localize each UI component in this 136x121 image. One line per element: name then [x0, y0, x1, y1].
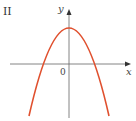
y-axis-arrow-icon	[67, 9, 72, 15]
y-axis-label: y	[58, 3, 64, 14]
x-axis-label: x	[126, 66, 132, 77]
graph-canvas	[0, 0, 136, 121]
origin-label: 0	[60, 67, 66, 77]
graph-figure: II y x 0	[0, 0, 136, 121]
panel-label: II	[3, 5, 12, 18]
